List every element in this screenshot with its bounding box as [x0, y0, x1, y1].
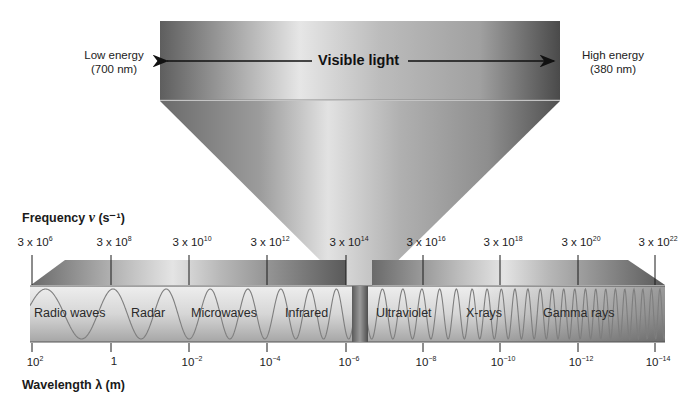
region-radar: Radar	[131, 306, 165, 320]
band-bevel-right	[372, 260, 665, 285]
low-energy-text: Low energy	[72, 48, 156, 62]
frequency-unit: (s⁻¹)	[95, 211, 125, 225]
frequency-tick-label: 3 x 1020	[561, 235, 600, 248]
frequency-tick-label: 3 x 106	[17, 235, 52, 248]
wavelength-tick-label: 10−6	[339, 355, 360, 368]
high-energy-label: High energy (380 nm)	[568, 48, 658, 76]
region-infrared: Infrared	[285, 306, 328, 320]
low-energy-wavelength: (700 nm)	[72, 62, 156, 76]
wavelength-tick-label: 10−14	[646, 355, 671, 368]
region-microwaves: Microwaves	[191, 306, 257, 320]
wavelength-tick-label: 1	[111, 355, 117, 367]
wavelength-tick-label: 10−10	[491, 355, 516, 368]
high-energy-wavelength: (380 nm)	[568, 62, 658, 76]
visible-light-title: Visible light	[318, 52, 399, 68]
region-x-rays: X-rays	[466, 306, 502, 320]
region-gamma-rays: Gamma rays	[543, 306, 615, 320]
wavelength-tick-label: 10−8	[416, 355, 437, 368]
frequency-axis-title: Frequency ν (s⁻¹)	[22, 210, 125, 226]
frequency-tick-label: 3 x 1022	[638, 235, 677, 248]
frequency-tick-label: 3 x 1018	[483, 235, 522, 248]
frequency-tick-label: 3 x 1012	[250, 235, 289, 248]
wavelength-tick-label: 10−4	[260, 355, 281, 368]
region-radio-waves: Radio waves	[34, 306, 106, 320]
low-energy-label: Low energy (700 nm)	[72, 48, 156, 76]
wavelength-tick-label: 10−2	[182, 355, 203, 368]
wavelength-tick-label: 102	[27, 355, 44, 368]
frequency-tick-label: 3 x 1010	[172, 235, 211, 248]
frequency-title-text: Frequency	[22, 211, 89, 225]
high-energy-text: High energy	[568, 48, 658, 62]
visible-slit	[352, 286, 368, 342]
wavelength-tick-label: 10−12	[569, 355, 594, 368]
frequency-tick-label: 3 x 108	[96, 235, 131, 248]
region-ultraviolet: Ultraviolet	[376, 306, 432, 320]
wavelength-axis-title: Wavelength λ (m)	[22, 378, 125, 392]
frequency-tick-label: 3 x 1016	[406, 235, 445, 248]
frequency-tick-label: 3 x 1014	[329, 235, 368, 248]
